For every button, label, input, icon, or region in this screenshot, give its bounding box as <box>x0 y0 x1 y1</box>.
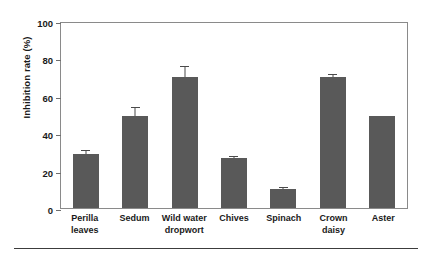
bar-slot <box>110 23 159 208</box>
x-axis-category-label-line: Aster <box>359 213 407 225</box>
x-axis-category-label-line: Sedum <box>111 213 159 225</box>
bar-slot <box>160 23 209 208</box>
error-bar-cap <box>328 74 337 75</box>
bar-slot <box>308 23 357 208</box>
x-axis-category-label: Perillaleaves <box>60 213 110 236</box>
bar-slot <box>61 23 110 208</box>
x-axis-category-label: Aster <box>358 213 408 236</box>
y-axis-tick-label: 60 <box>42 92 53 103</box>
x-axis-category-label: Chives <box>209 213 259 236</box>
error-bar <box>135 107 136 116</box>
x-axis-category-label: Crown daisy <box>309 213 359 236</box>
error-bar <box>332 74 333 77</box>
error-bar <box>85 150 86 154</box>
x-axis-category-label-line: Perilla <box>61 213 109 225</box>
x-axis-category-label: Wild waterdropwort <box>159 213 209 236</box>
x-axis-category-labels: PerillaleavesSedumWild waterdropwortChiv… <box>60 213 408 236</box>
bar-slot <box>358 23 407 208</box>
y-axis-tick-label: 0 <box>48 205 53 216</box>
bar-series <box>61 23 407 208</box>
error-bar-cap <box>180 66 189 67</box>
bar[interactable] <box>320 77 346 208</box>
error-bar <box>283 187 284 189</box>
bar[interactable] <box>270 189 296 208</box>
y-axis-tick-label: 20 <box>42 167 53 178</box>
bar-slot <box>209 23 258 208</box>
x-axis-category-label-line: dropwort <box>160 225 208 237</box>
y-axis-tick <box>56 210 61 211</box>
error-bar <box>184 66 185 77</box>
bottom-divider <box>14 248 418 249</box>
x-axis-category-label-line: Crown daisy <box>310 213 358 236</box>
error-bar-cap <box>229 156 238 157</box>
y-axis-tick-label: 100 <box>37 18 53 29</box>
x-axis-category-label: Spinach <box>259 213 309 236</box>
y-axis-tick-label: 40 <box>42 130 53 141</box>
x-axis-category-label-line: Spinach <box>260 213 308 225</box>
x-axis-category-label: Sedum <box>110 213 160 236</box>
y-axis-title: Inhibition rate (%) <box>21 8 32 148</box>
error-bar-cap <box>131 107 140 108</box>
error-bar <box>233 156 234 158</box>
x-axis-category-label-line: Chives <box>210 213 258 225</box>
bar-chart-figure: Inhibition rate (%) 020406080100 Perilla… <box>0 0 428 259</box>
bar[interactable] <box>221 158 247 208</box>
bar[interactable] <box>122 116 148 208</box>
x-axis-category-label-line: leaves <box>61 225 109 237</box>
error-bar-cap <box>81 150 90 151</box>
error-bar-cap <box>279 187 288 188</box>
bar-slot <box>259 23 308 208</box>
x-axis-category-label-line: Wild water <box>160 213 208 225</box>
plot-area: 020406080100 <box>60 22 408 209</box>
y-axis-tick-label: 80 <box>42 55 53 66</box>
bar[interactable] <box>172 77 198 208</box>
bar[interactable] <box>369 116 395 208</box>
bar[interactable] <box>73 154 99 208</box>
